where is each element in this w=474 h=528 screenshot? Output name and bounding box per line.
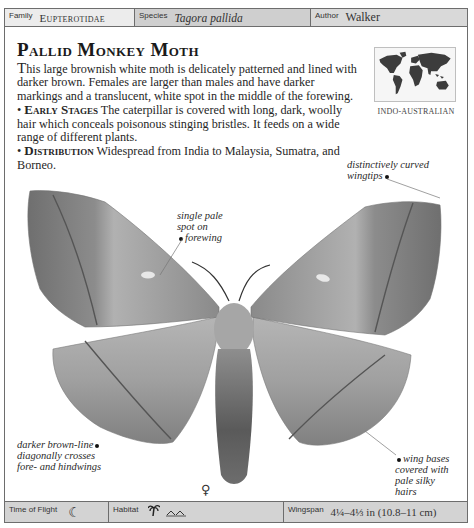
species-cell: Species Tagora pallida [135, 9, 311, 26]
habitat-cell: Habitat [109, 502, 284, 522]
intro-paragraph: This large brownish white moth is delica… [17, 62, 362, 103]
section-early-stages: • Early Stages The caterpillar is covere… [17, 103, 362, 144]
family-label: Family [9, 11, 33, 20]
time-of-flight-label: Time of Flight [9, 505, 57, 514]
facts-footer-bar: Time of Flight ☾ Habitat Wingspan 4¼–4⅓ … [4, 501, 468, 523]
family-value: Eupterotidae [40, 12, 105, 24]
field-guide-page: Family Eupterotidae Species Tagora palli… [4, 8, 468, 524]
habitat-label: Habitat [113, 505, 138, 514]
wingspan-value: 4¼–4⅓ in (10.8–11 cm) [331, 506, 437, 518]
wingspan-cell: Wingspan 4¼–4⅓ in (10.8–11 cm) [284, 502, 467, 522]
leader-line [363, 429, 399, 457]
author-label: Author [315, 11, 339, 20]
species-value: Tagora pallida [174, 12, 242, 24]
hills-icon [166, 503, 186, 521]
leader-line [385, 177, 445, 201]
taxonomy-header-bar: Family Eupterotidae Species Tagora palli… [4, 8, 468, 27]
entry-body: Pallid Monkey Moth This large brownish w… [4, 27, 468, 501]
section-heading: Early Stages [24, 102, 98, 117]
time-of-flight-cell: Time of Flight ☾ [5, 502, 109, 522]
leader-dot [95, 444, 99, 448]
section-distribution: • Distribution Widespread from India to … [17, 144, 362, 172]
region-label: INDO-AUSTRALIAN [370, 107, 462, 116]
author-value: Walker [346, 10, 380, 25]
leader-line [157, 237, 187, 277]
species-label: Species [139, 11, 167, 20]
description-text: This large brownish white moth is delica… [17, 62, 362, 172]
leader-dot [397, 458, 401, 462]
section-heading: Distribution [24, 143, 93, 158]
page-title: Pallid Monkey Moth [17, 39, 199, 61]
author-cell: Author Walker [311, 9, 467, 26]
drop-cap: T [17, 60, 26, 76]
annotation-wing-bases: wing bases covered with pale silky hairs [395, 453, 449, 497]
wingspan-label: Wingspan [288, 505, 324, 514]
moon-icon: ☾ [68, 504, 81, 520]
female-symbol: ♀ [201, 482, 211, 497]
family-cell: Family Eupterotidae [5, 9, 135, 26]
palm-tree-icon [148, 503, 160, 521]
world-map-icon [374, 47, 456, 102]
annotation-diagonal-line: darker brown-line diagonally crosses for… [17, 439, 101, 472]
